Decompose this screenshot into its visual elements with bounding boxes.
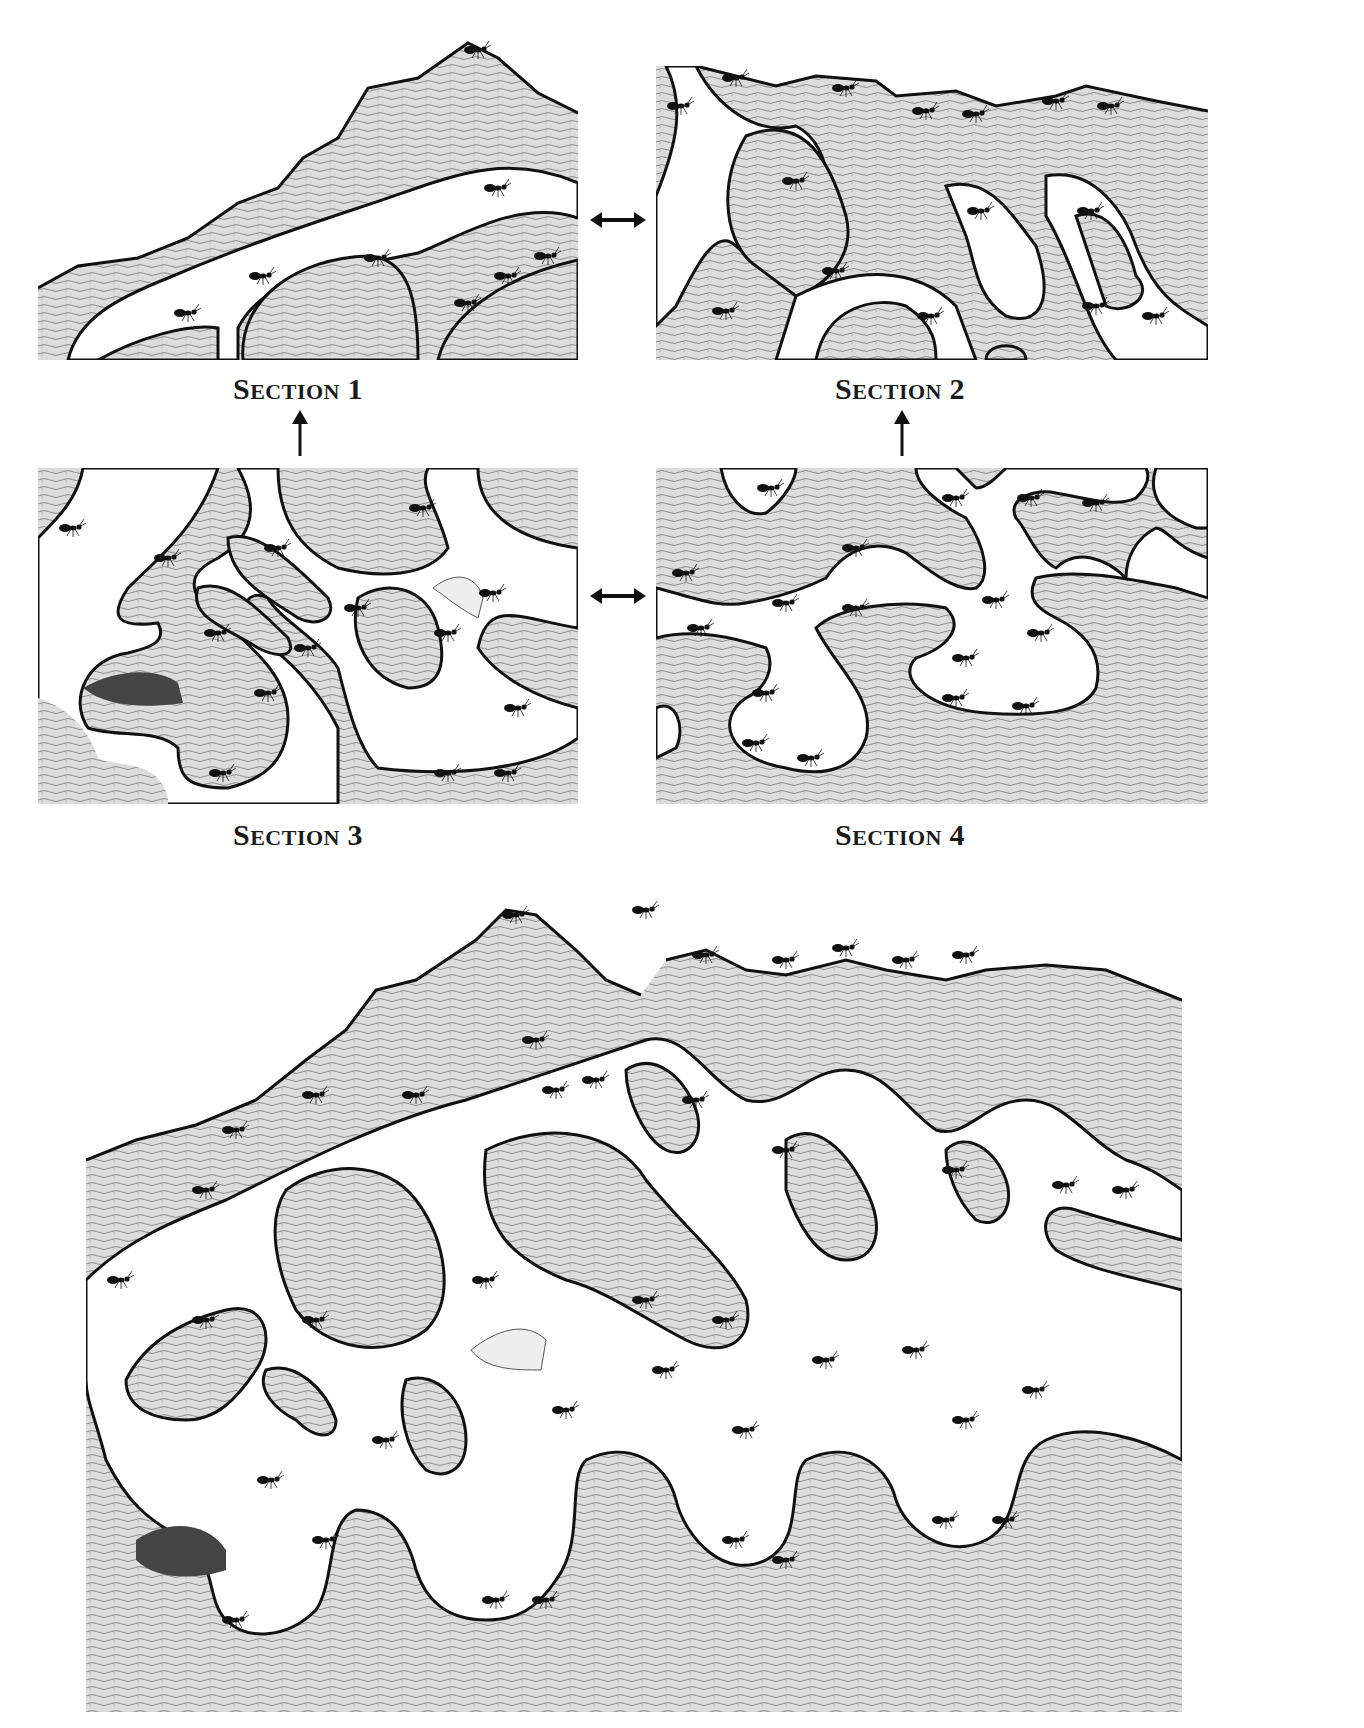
- up-arrow-3-1-icon: [290, 410, 310, 456]
- up-arrow-4-2-icon: [892, 410, 912, 456]
- section-2-panel: [656, 66, 1208, 360]
- section-4-label: Section 4: [820, 818, 980, 852]
- double-arrow-1-2-icon: [588, 210, 648, 230]
- composite-nest-panel: [86, 900, 1182, 1712]
- section-2-label: Section 2: [820, 372, 980, 406]
- section-3-panel: [38, 468, 578, 804]
- section-3-label: Section 3: [218, 818, 378, 852]
- section-1-panel: [38, 38, 578, 360]
- section-4-panel: [656, 468, 1208, 804]
- double-arrow-3-4-icon: [588, 586, 648, 606]
- section-1-label: Section 1: [218, 372, 378, 406]
